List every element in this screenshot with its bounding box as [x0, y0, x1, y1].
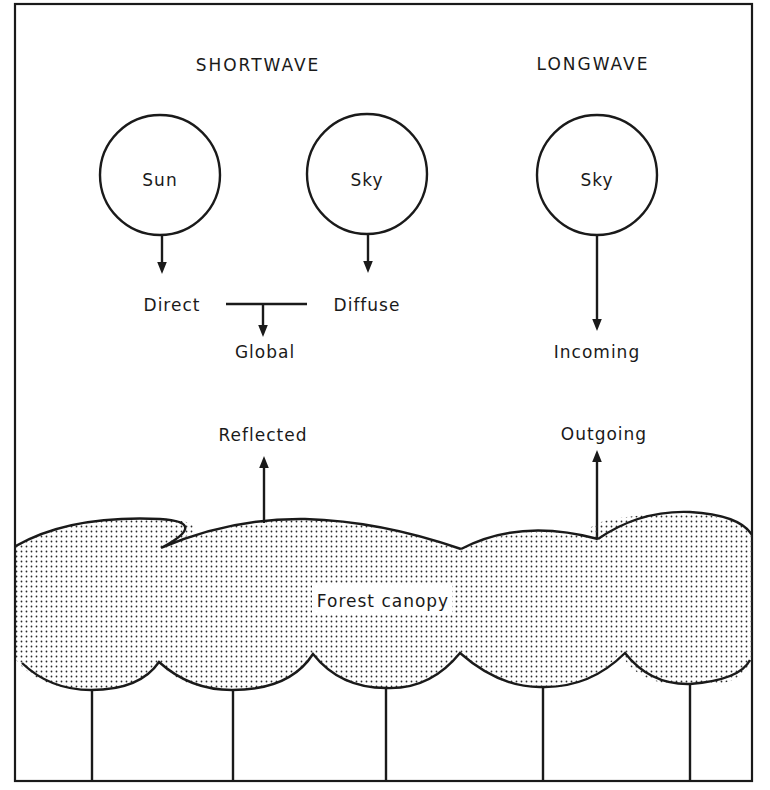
sky-shortwave-node: Sky — [307, 114, 427, 234]
sun-node: Sun — [100, 115, 220, 235]
forest-canopy-label: Forest canopy — [317, 591, 449, 611]
direct-label: Direct — [144, 295, 201, 315]
radiation-diagram: SHORTWAVE LONGWAVE Sun Sky Sky Direct Di… — [0, 0, 770, 790]
sky-longwave-node: Sky — [537, 115, 657, 235]
shortwave-header: SHORTWAVE — [196, 55, 321, 75]
longwave-header: LONGWAVE — [537, 54, 650, 74]
sky-shortwave-label: Sky — [350, 170, 383, 190]
diffuse-label: Diffuse — [334, 295, 401, 315]
global-label: Global — [235, 342, 295, 362]
outgoing-label: Outgoing — [561, 424, 647, 444]
sun-label: Sun — [142, 170, 177, 190]
sky-longwave-label: Sky — [580, 170, 613, 190]
incoming-label: Incoming — [554, 342, 640, 362]
tree-trunks — [92, 684, 690, 781]
reflected-label: Reflected — [219, 425, 308, 445]
